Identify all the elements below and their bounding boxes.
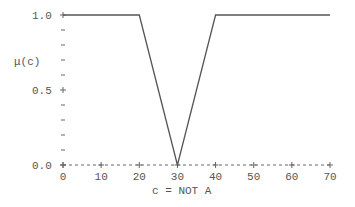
- x-tick-label: 10: [95, 171, 108, 183]
- membership-line: [63, 15, 330, 165]
- y-tick-label-0: 0.0: [32, 160, 52, 172]
- x-tick-label: 60: [285, 171, 298, 183]
- x-tick-label: 40: [209, 171, 222, 183]
- x-tick-label: 50: [247, 171, 260, 183]
- y-axis-label: μ(c): [14, 56, 40, 68]
- x-tick-label: 30: [171, 171, 184, 183]
- y-tick-label-1: 1.0: [32, 10, 52, 22]
- x-axis-label: c = NOT A: [152, 185, 211, 197]
- x-tick-label: 20: [133, 171, 146, 183]
- x-tick-label: 70: [323, 171, 336, 183]
- y-tick-label-05: 0.5: [32, 85, 52, 97]
- x-tick-label: 0: [60, 171, 67, 183]
